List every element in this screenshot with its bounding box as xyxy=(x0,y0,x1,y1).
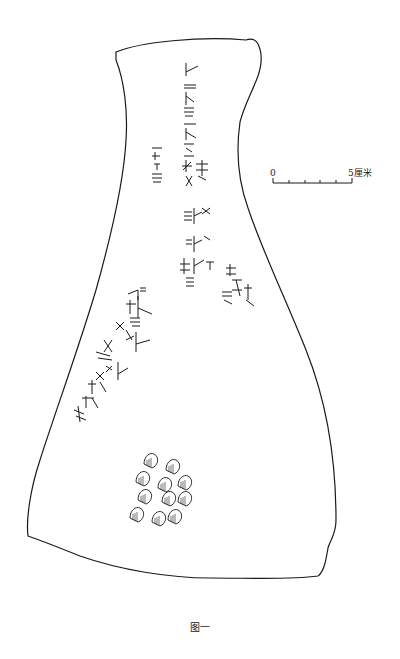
scale-bar xyxy=(273,178,352,183)
inscription-column-4 xyxy=(180,208,210,286)
inscription-column-6 xyxy=(74,288,152,422)
drill-pits xyxy=(130,453,192,526)
scale-end-label: 5厘米 xyxy=(348,169,372,178)
figure-caption: 图一 xyxy=(0,619,400,634)
inscription-column-2 xyxy=(152,148,162,182)
inscription-column-5 xyxy=(206,262,254,306)
scale-start-label: 0 xyxy=(270,169,276,178)
oracle-bone-drawing xyxy=(0,0,400,659)
inscription-column-1 xyxy=(182,63,198,186)
inscription-column-3 xyxy=(196,160,208,180)
